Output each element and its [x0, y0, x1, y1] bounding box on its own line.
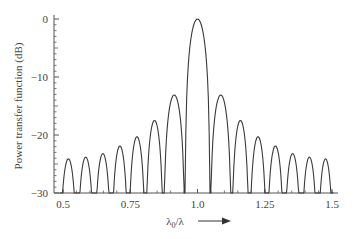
x-tick-label: 0.75	[121, 198, 141, 210]
power-transfer-chart: 0−10−20−30 0.50.751.01.251.5 Power trans…	[0, 0, 357, 239]
x-axis-label: λ0/λ	[166, 215, 184, 230]
x-tick-label: 1.25	[255, 198, 275, 210]
y-axis: 0−10−20−30	[31, 13, 59, 199]
arrow-icon	[198, 218, 231, 225]
x-tick-label: 1.0	[191, 198, 205, 210]
y-tick-label: 0	[43, 13, 49, 25]
x-tick-label: 1.5	[325, 198, 339, 210]
x-tick-label: 0.5	[56, 198, 70, 210]
data-series-curve	[60, 19, 334, 193]
y-tick-label: −30	[31, 187, 49, 199]
y-tick-label: −10	[31, 71, 49, 83]
y-axis-label: Power transfer function (dB)	[12, 42, 25, 169]
y-tick-label: −20	[31, 129, 49, 141]
